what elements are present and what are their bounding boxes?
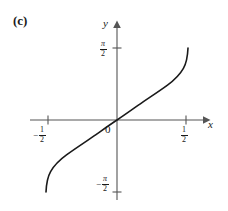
x-tick-neg-half-fraction: 1 2 bbox=[39, 126, 46, 144]
x-tick-pos-half-denominator: 2 bbox=[181, 136, 187, 144]
x-tick-pos-half-numerator: 1 bbox=[181, 126, 187, 134]
x-axis-label: x bbox=[208, 118, 213, 130]
plot-canvas bbox=[0, 0, 228, 211]
y-tick-label-neg-pi-half: − π 2 bbox=[96, 175, 109, 193]
y-tick-pos-pi-half-numerator: π bbox=[100, 40, 106, 48]
x-tick-label-pos-half: 1 2 bbox=[180, 126, 188, 144]
x-tick-neg-half-denominator: 2 bbox=[39, 136, 45, 144]
y-tick-pos-pi-half-fraction: π 2 bbox=[100, 40, 107, 58]
y-tick-neg-pi-half-denominator: 2 bbox=[102, 185, 108, 193]
figure-panel-c: (c) y x 0 π 2 − π bbox=[0, 0, 228, 211]
y-tick-neg-pi-half-numerator: π bbox=[102, 175, 108, 183]
x-tick-neg-half-sign: − bbox=[33, 131, 38, 140]
x-tick-pos-half-fraction: 1 2 bbox=[181, 126, 188, 144]
y-axis-arrowhead bbox=[113, 21, 121, 29]
y-tick-neg-pi-half-fraction: π 2 bbox=[102, 175, 109, 193]
x-tick-label-neg-half: − 1 2 bbox=[33, 126, 46, 144]
y-axis-label: y bbox=[103, 17, 108, 29]
y-tick-neg-pi-half-sign: − bbox=[96, 180, 101, 189]
y-tick-label-pos-pi-half: π 2 bbox=[99, 40, 107, 58]
origin-label: 0 bbox=[105, 123, 111, 135]
x-tick-neg-half-numerator: 1 bbox=[39, 126, 45, 134]
y-tick-pos-pi-half-denominator: 2 bbox=[100, 50, 106, 58]
